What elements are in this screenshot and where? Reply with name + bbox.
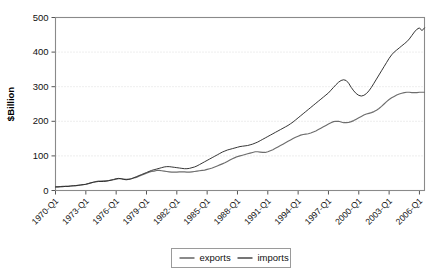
y-tick-label: 100 bbox=[33, 150, 49, 161]
x-tick-label: 2006-Q1 bbox=[394, 196, 425, 227]
y-tick-label: 300 bbox=[33, 81, 49, 92]
x-tick-label: 1970-Q1 bbox=[30, 196, 61, 227]
x-axis-ticks: 1970-Q11973-Q11976-Q11979-Q11982-Q11985-… bbox=[30, 191, 425, 227]
y-tick-label: 0 bbox=[43, 185, 48, 196]
line-chart: 0100200300400500 1970-Q11973-Q11976-Q119… bbox=[0, 0, 447, 279]
chart-figure: 0100200300400500 1970-Q11973-Q11976-Q119… bbox=[0, 0, 447, 279]
gridlines bbox=[56, 52, 425, 156]
x-tick-label: 1979-Q1 bbox=[121, 196, 152, 227]
data-series-group bbox=[56, 28, 425, 187]
y-tick-label: 500 bbox=[33, 12, 49, 23]
x-tick-label: 1973-Q1 bbox=[60, 196, 91, 227]
x-tick-label: 1985-Q1 bbox=[181, 196, 212, 227]
y-tick-label: 200 bbox=[33, 115, 49, 126]
chart-legend: exportsimports bbox=[172, 249, 291, 268]
series-line-exports bbox=[56, 92, 425, 186]
x-tick-label: 1988-Q1 bbox=[212, 196, 243, 227]
plot-area-frame bbox=[56, 18, 425, 191]
legend-label-exports: exports bbox=[200, 252, 231, 263]
x-tick-label: 1976-Q1 bbox=[90, 196, 121, 227]
x-tick-label: 1991-Q1 bbox=[242, 196, 273, 227]
y-axis-title: $Billion bbox=[5, 87, 16, 122]
legend-label-imports: imports bbox=[258, 252, 289, 263]
x-tick-label: 2000-Q1 bbox=[333, 196, 364, 227]
y-tick-label: 400 bbox=[33, 46, 49, 57]
y-axis-ticks: 0100200300400500 bbox=[33, 12, 56, 196]
x-tick-label: 1994-Q1 bbox=[272, 196, 303, 227]
series-line-imports bbox=[56, 28, 425, 187]
x-tick-label: 1997-Q1 bbox=[303, 196, 334, 227]
x-tick-label: 2003-Q1 bbox=[363, 196, 394, 227]
x-tick-label: 1982-Q1 bbox=[151, 196, 182, 227]
